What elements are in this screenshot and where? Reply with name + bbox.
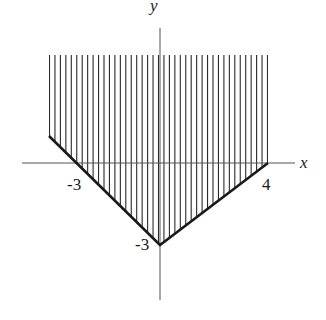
x-axis-label: x <box>299 153 308 172</box>
graph-canvas: x y -3 4 -3 <box>0 0 326 320</box>
x-intercept-right-label: 4 <box>262 175 271 194</box>
y-intercept-label: -3 <box>135 235 149 254</box>
y-axis-label: y <box>148 0 158 15</box>
x-intercept-left-label: -3 <box>67 175 81 194</box>
shaded-region <box>50 55 268 250</box>
